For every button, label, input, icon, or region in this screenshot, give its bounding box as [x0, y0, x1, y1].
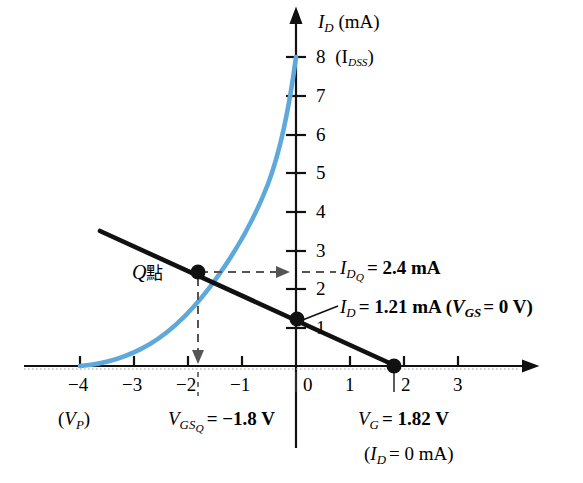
- y-tick-8-value: 8: [316, 46, 326, 67]
- idq-subsubscript: Q: [356, 271, 364, 283]
- x-tick-label-neg2: −2: [176, 375, 196, 394]
- idq-annotation: IDQ= 2.4 mA: [340, 258, 441, 283]
- transfer-curve: [80, 57, 296, 366]
- vgsq-annotation: VGSQ= −1.8 V: [168, 409, 275, 434]
- id-subscript: D: [346, 305, 355, 320]
- vg-point-marker: [387, 359, 402, 374]
- x-tick-label-neg4: −4: [68, 375, 88, 394]
- vg-second-close: ): [447, 443, 453, 464]
- vg-second-value: = 0 mA: [389, 443, 447, 464]
- y-tick-label-7: 7: [316, 86, 326, 105]
- jfet-transfer-characteristic-figure: ID (mA) 8 (IDSS) 7 6 5 4 3 2 1 −4 −3 −2 …: [0, 0, 583, 483]
- vgsq-subsubscript: Q: [195, 422, 203, 434]
- y-axis-title-units: (mA): [338, 11, 379, 32]
- vp-annotation: (VP): [58, 409, 90, 432]
- x-tick-label-1: 1: [345, 375, 355, 394]
- x-tick-label-neg1: −1: [230, 375, 250, 394]
- vgs-symbol: V: [452, 296, 465, 317]
- y-tick-label-4: 4: [316, 202, 326, 221]
- idq-subscript: D: [346, 266, 355, 281]
- vgs-value: = 0 V: [483, 296, 526, 317]
- idq-value: = 2.4 mA: [367, 257, 441, 278]
- vgsq-subscript: GS: [180, 417, 196, 432]
- idss-close: ): [368, 46, 374, 67]
- vg-symbol: V: [358, 408, 370, 429]
- vp-close: ): [84, 408, 90, 429]
- idss-open: (I: [335, 46, 348, 67]
- x-tick-label-3: 3: [453, 375, 463, 394]
- q-point-text: 點: [146, 263, 163, 283]
- vgsq-symbol: V: [168, 408, 180, 429]
- id-value: = 1.21 mA: [359, 296, 442, 317]
- y-tick-label-2: 2: [316, 279, 326, 298]
- vp-symbol: V: [64, 408, 76, 429]
- vg-second-subscript: D: [377, 452, 386, 467]
- y-tick-label-6: 6: [316, 125, 326, 144]
- vgs-subscript: GS: [465, 305, 482, 320]
- q-point-symbol: Q: [132, 261, 146, 283]
- y-tick-label-1: 1: [316, 318, 326, 337]
- vgs0-point-marker: [290, 312, 305, 327]
- q-point-label: Q點: [132, 262, 163, 282]
- x-tick-label-2: 2: [401, 375, 411, 394]
- vg-subscript: G: [370, 417, 379, 432]
- y-tick-label-8: 8 (IDSS): [316, 47, 374, 69]
- vg-value: = 1.82 V: [382, 408, 449, 429]
- y-axis-title: ID (mA): [318, 12, 380, 35]
- vg-annotation: VG= 1.82 V: [358, 409, 449, 432]
- vgsq-value: = −1.8 V: [207, 408, 275, 429]
- id-paren-close: ): [527, 296, 533, 317]
- idss-annotation: (IDSS): [335, 46, 374, 67]
- vp-subscript: P: [76, 417, 84, 432]
- y-tick-label-5: 5: [316, 163, 326, 182]
- x-tick-label-neg3: −3: [122, 375, 142, 394]
- idss-subscript: DSS: [348, 56, 368, 68]
- q-point-marker: [191, 265, 206, 280]
- y-tick-label-3: 3: [316, 241, 326, 260]
- x-tick-label-0: 0: [303, 375, 313, 394]
- y-axis-title-subscript: D: [324, 20, 333, 35]
- vg-id-zero-annotation: (ID= 0 mA): [364, 444, 454, 467]
- id-vgs0-annotation: ID= 1.21 mA(VGS= 0 V): [340, 297, 533, 320]
